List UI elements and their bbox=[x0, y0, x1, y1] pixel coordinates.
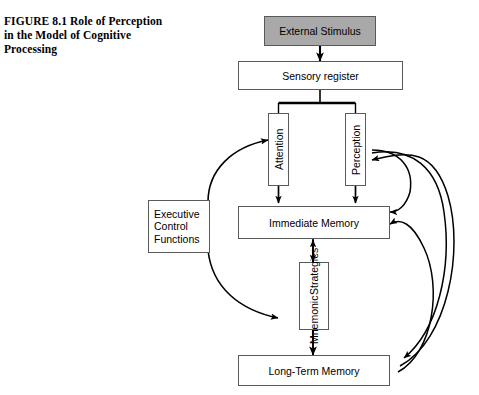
node-sensory-register-label: Sensory register bbox=[282, 70, 358, 82]
node-long-term-memory-label: Long-Term Memory bbox=[268, 365, 359, 377]
node-immediate-memory-label: Immediate Memory bbox=[269, 217, 359, 229]
node-external-stimulus-label: External Stimulus bbox=[279, 25, 361, 37]
node-mnemonic-strategies-line2: Strategies bbox=[308, 248, 320, 295]
node-external-stimulus[interactable]: External Stimulus bbox=[264, 16, 376, 46]
node-perception[interactable]: Perception bbox=[345, 113, 366, 186]
node-mnemonic-strategies-line1: Mnemonic bbox=[308, 295, 320, 343]
edge-executive-control-to-attention bbox=[208, 140, 268, 202]
node-attention[interactable]: Attention bbox=[268, 113, 289, 186]
edge-sensory-register-bus bbox=[279, 90, 356, 113]
node-mnemonic-strategies[interactable]: Mnemonic Strategies bbox=[299, 262, 329, 330]
edge-executive-control-to-mnemonic-strategies bbox=[208, 250, 278, 318]
node-executive-control-line2: Control bbox=[154, 220, 188, 233]
node-perception-label: Perception bbox=[350, 124, 362, 174]
node-attention-label: Attention bbox=[273, 129, 285, 170]
node-executive-control-line3: Functions bbox=[154, 233, 200, 246]
node-executive-control-line1: Executive bbox=[154, 208, 200, 221]
edge-long-term-memory-to-perception bbox=[372, 155, 454, 366]
node-immediate-memory[interactable]: Immediate Memory bbox=[238, 206, 390, 239]
edge-long-term-memory-to-immediate-memory bbox=[390, 222, 433, 372]
cognitive-processing-flowchart bbox=[0, 0, 479, 395]
node-long-term-memory[interactable]: Long-Term Memory bbox=[238, 355, 390, 386]
node-sensory-register[interactable]: Sensory register bbox=[238, 61, 403, 90]
node-executive-control-functions[interactable]: Executive Control Functions bbox=[148, 200, 210, 253]
